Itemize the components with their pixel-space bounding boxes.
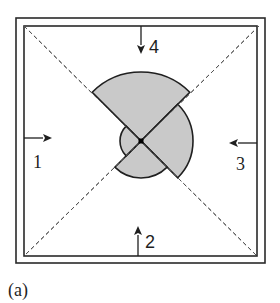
arrow-label: 3 [236, 154, 245, 174]
arrow-3: 3 [229, 139, 257, 174]
arrowhead-icon [137, 45, 145, 54]
arrow-4: 4 [137, 26, 159, 57]
arrowhead-icon [229, 139, 238, 147]
center-point [139, 139, 144, 144]
arrow-1: 1 [24, 134, 52, 172]
arrow-2: 2 [134, 226, 155, 256]
sector-shape [92, 72, 193, 178]
figure-caption: (a) [8, 280, 28, 301]
arrow-label: 1 [33, 152, 42, 172]
arrowhead-icon [43, 134, 52, 142]
diagram-figure: 1234 (a) [0, 0, 280, 303]
arrowhead-icon [134, 226, 142, 235]
arrow-label: 2 [145, 232, 155, 252]
arrow-label: 4 [149, 37, 159, 57]
